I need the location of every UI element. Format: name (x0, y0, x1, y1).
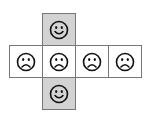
frowny-face-icon (16, 52, 36, 72)
frowny-face-icon (115, 52, 135, 72)
frowny-face-icon (82, 52, 102, 72)
net-cell-bottom (42, 77, 76, 110)
smiley-face-icon (49, 20, 69, 40)
frowny-face-icon (49, 52, 69, 72)
net-cell-top (42, 13, 76, 46)
net-cell-right1 (75, 45, 109, 78)
smiley-face-icon (49, 84, 69, 104)
net-cell-left (9, 45, 43, 78)
net-cell-right2 (108, 45, 142, 78)
net-cell-center (42, 45, 76, 78)
